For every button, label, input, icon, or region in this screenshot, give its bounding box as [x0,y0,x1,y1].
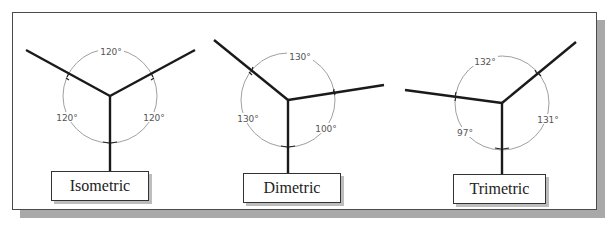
isometric-angle-left: 120° [56,113,78,123]
dimetric-angle-top: 130° [289,52,311,62]
isometric-label: Isometric [51,171,149,201]
trimetric-left-axis [405,90,502,103]
trimetric-angle-left: 97° [457,128,473,138]
dimetric-left-axis [214,40,288,100]
trimetric-angle-right: 131° [537,115,559,125]
isometric-angle-right: 120° [143,113,165,123]
trimetric-angle-top: 132° [474,57,496,67]
trimetric-right-axis [502,42,576,103]
dimetric-right-axis [288,85,384,100]
trimetric-axes: 132° 97° 131° [405,42,576,174]
dimetric-label: Dimetric [243,173,341,203]
dimetric-angle-right: 100° [315,124,337,134]
isometric-angle-top: 120° [100,47,122,57]
isometric-axes: 120° 120° 120° [26,47,195,171]
dimetric-angle-left: 130° [237,114,259,124]
trimetric-arrowheads-left [455,92,456,101]
projection-figure: 120° 120° 120° 130° 130° 100° [0,0,610,226]
dimetric-axes: 130° 130° 100° [214,40,384,173]
trimetric-label: Trimetric [453,174,546,204]
isometric-left-axis [26,50,110,96]
